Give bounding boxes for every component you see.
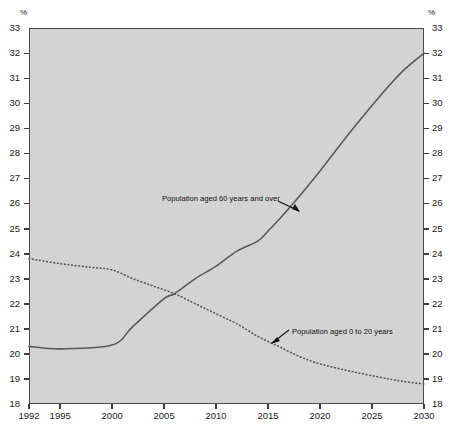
annotation-label-younger: Population aged 0 to 20 years	[292, 327, 393, 336]
y-tick-label-left-27: 27	[3, 173, 20, 182]
y-tick-label-left-31: 31	[3, 73, 20, 82]
y-tick-label-left-23: 23	[3, 274, 20, 283]
x-tick-mark-1992	[28, 404, 30, 409]
x-tick-mark-1995	[59, 404, 61, 409]
y-tick-label-right-26: 26	[432, 198, 449, 207]
x-tick-label-2030: 2030	[407, 411, 441, 420]
y-tick-mark-right-22	[424, 303, 429, 305]
y-tick-label-left-18: 18	[3, 399, 20, 408]
y-tick-label-right-30: 30	[432, 98, 449, 107]
y-axis-unit-right: %	[428, 8, 435, 17]
y-tick-label-left-20: 20	[3, 349, 20, 358]
x-tick-label-2005: 2005	[147, 411, 181, 420]
y-tick-mark-left-25	[24, 228, 29, 230]
y-tick-label-left-24: 24	[3, 249, 20, 258]
y-tick-mark-right-25	[424, 228, 429, 230]
y-tick-label-left-33: 33	[3, 23, 20, 32]
y-tick-mark-left-20	[24, 353, 29, 355]
y-tick-label-left-19: 19	[3, 374, 20, 383]
y-tick-mark-right-24	[424, 253, 429, 255]
y-tick-mark-right-27	[424, 178, 429, 180]
y-tick-mark-left-27	[24, 178, 29, 180]
x-tick-mark-2030	[423, 404, 425, 409]
y-tick-mark-left-19	[24, 378, 29, 380]
x-tick-label-2000: 2000	[95, 411, 129, 420]
x-tick-mark-2015	[267, 404, 269, 409]
x-tick-mark-2025	[371, 404, 373, 409]
y-tick-label-right-19: 19	[432, 374, 449, 383]
y-tick-label-left-28: 28	[3, 148, 20, 157]
y-tick-mark-right-31	[424, 78, 429, 80]
y-tick-mark-left-28	[24, 153, 29, 155]
y-tick-mark-right-21	[424, 328, 429, 330]
y-tick-mark-left-31	[24, 78, 29, 80]
y-tick-label-right-25: 25	[432, 224, 449, 233]
y-tick-mark-left-26	[24, 203, 29, 205]
y-tick-label-right-20: 20	[432, 349, 449, 358]
x-tick-mark-2005	[163, 404, 165, 409]
y-tick-label-left-29: 29	[3, 123, 20, 132]
x-tick-label-2010: 2010	[199, 411, 233, 420]
y-tick-mark-left-29	[24, 128, 29, 130]
y-tick-label-right-22: 22	[432, 299, 449, 308]
y-tick-label-right-31: 31	[432, 73, 449, 82]
y-tick-label-right-28: 28	[432, 148, 449, 157]
y-tick-label-left-30: 30	[3, 98, 20, 107]
y-tick-mark-left-23	[24, 278, 29, 280]
x-tick-label-1992: 1992	[12, 411, 46, 420]
x-tick-label-2020: 2020	[303, 411, 337, 420]
y-tick-mark-right-32	[424, 53, 429, 55]
x-tick-label-2025: 2025	[355, 411, 389, 420]
y-tick-label-right-21: 21	[432, 324, 449, 333]
x-tick-mark-2020	[319, 404, 321, 409]
y-tick-label-right-29: 29	[432, 123, 449, 132]
y-tick-mark-left-32	[24, 53, 29, 55]
y-tick-label-right-33: 33	[432, 23, 449, 32]
y-tick-label-left-22: 22	[3, 299, 20, 308]
y-tick-mark-right-26	[424, 203, 429, 205]
population-projection-chart: % % 18192021222324252627282930313233 181…	[0, 0, 457, 439]
y-tick-label-right-23: 23	[432, 274, 449, 283]
y-tick-mark-left-22	[24, 303, 29, 305]
x-tick-label-2015: 2015	[251, 411, 285, 420]
y-tick-mark-left-21	[24, 328, 29, 330]
y-tick-mark-right-30	[424, 103, 429, 105]
y-tick-label-right-24: 24	[432, 249, 449, 258]
x-tick-label-1995: 1995	[43, 411, 77, 420]
annotation-label-older: Population aged 60 years and over	[162, 194, 280, 203]
y-tick-label-left-25: 25	[3, 224, 20, 233]
y-tick-label-right-32: 32	[432, 48, 449, 57]
y-tick-label-right-27: 27	[432, 173, 449, 182]
y-tick-mark-right-28	[424, 153, 429, 155]
y-tick-mark-right-19	[424, 378, 429, 380]
y-tick-mark-left-30	[24, 103, 29, 105]
y-tick-mark-left-24	[24, 253, 29, 255]
y-tick-mark-right-29	[424, 128, 429, 130]
plot-area	[29, 28, 424, 404]
y-tick-label-right-18: 18	[432, 399, 449, 408]
y-tick-mark-right-20	[424, 353, 429, 355]
x-tick-mark-2010	[215, 404, 217, 409]
y-tick-label-left-21: 21	[3, 324, 20, 333]
y-tick-label-left-32: 32	[3, 48, 20, 57]
y-tick-label-left-26: 26	[3, 198, 20, 207]
y-axis-unit-left: %	[20, 8, 27, 17]
x-tick-mark-2000	[111, 404, 113, 409]
y-tick-mark-right-23	[424, 278, 429, 280]
